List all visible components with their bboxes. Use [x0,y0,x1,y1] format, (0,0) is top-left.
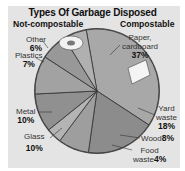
label-glass: Glass 10% [24,132,44,153]
label-paper-pct: 37% [122,51,158,60]
label-wood-name: Wood [141,134,162,143]
label-paper-name: Paper, [122,33,158,42]
label-yard: Yard waste 18% [156,104,177,131]
label-metal-pct: 10% [16,116,36,125]
label-metal: Metal 10% [16,107,36,125]
label-glass-pct: 10% [24,144,44,153]
label-food-pct: 4% [154,154,166,164]
label-plastics: Plastics 7% [15,51,43,69]
label-paper: Paper, cardboard 37% [122,33,158,60]
label-wood-pct: 8% [162,133,174,143]
label-wood: Wood8% [141,134,174,143]
label-yard-name: Yard [156,104,177,113]
label-other-pct: 6% [26,44,46,53]
label-food: Food waste4% [133,146,166,164]
label-glass-name: Glass [24,132,44,141]
label-food-name2: waste [133,155,154,164]
label-other: Other 6% [26,35,46,53]
label-yard-pct: 18% [156,122,177,131]
label-plastics-pct: 7% [15,60,43,69]
